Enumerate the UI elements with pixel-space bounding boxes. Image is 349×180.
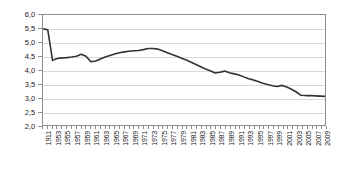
x-axis-tick-mark	[52, 126, 53, 129]
x-axis-tick-label: 1993	[247, 131, 254, 146]
x-axis-tick-mark	[85, 126, 86, 129]
x-axis-tick-mark	[56, 126, 57, 129]
x-axis-tick-mark	[158, 126, 159, 129]
x-axis-tick-mark	[172, 126, 173, 129]
x-axis-tick-mark	[215, 126, 216, 129]
x-axis-tick-label: 1969	[132, 131, 139, 146]
x-axis-tick-label: 1953	[55, 131, 62, 146]
x-axis-tick-label: 1961	[93, 131, 100, 146]
x-axis-tick-mark	[162, 126, 163, 129]
x-axis-tick-mark	[100, 126, 101, 129]
x-axis-tick-label: 2005	[305, 131, 312, 146]
x-axis-tick-label: 2003	[296, 131, 303, 146]
x-axis-tick-label: 1967	[122, 131, 129, 146]
x-axis-tick-mark	[249, 126, 250, 129]
x-axis-tick-mark	[292, 126, 293, 129]
x-axis-tick-mark	[307, 126, 308, 129]
x-axis-tick-mark	[196, 126, 197, 129]
x-axis-tick-mark	[302, 126, 303, 129]
x-axis-tick-mark	[235, 126, 236, 129]
x-axis-tick-label: 1959	[84, 131, 91, 146]
x-axis-tick-mark	[148, 126, 149, 129]
y-axis-tick-label: 2,5	[25, 108, 35, 117]
y-axis-tick-label: 5,5	[25, 24, 35, 33]
x-axis-tick-label: 1997	[267, 131, 274, 146]
x-axis-tick-mark	[206, 126, 207, 129]
y-axis-tick-label: 3,0	[25, 94, 35, 103]
x-axis-tick-mark	[316, 126, 317, 129]
x-axis-tick-mark	[225, 126, 226, 129]
x-axis-tick-label: 1981	[190, 131, 197, 146]
x-axis-tick-mark	[230, 126, 231, 129]
x-axis-tick-mark	[263, 126, 264, 129]
x-axis-tick-mark	[259, 126, 260, 129]
y-axis-tick-label: 3,5	[25, 80, 35, 89]
x-axis-tick-label: 1989	[228, 131, 235, 146]
x-axis-tick-label: 1955	[64, 131, 71, 146]
y-axis-tick-label: 4,5	[25, 52, 35, 61]
y-axis: 6,05,55,04,54,03,53,02,52,0	[0, 0, 42, 140]
x-axis-tick-mark	[287, 126, 288, 129]
x-axis-tick-label: 1963	[103, 131, 110, 146]
x-axis-tick-mark	[129, 126, 130, 129]
series-line-series-1	[43, 15, 325, 125]
x-axis-tick-mark	[244, 126, 245, 129]
x-axis-tick-mark	[42, 126, 43, 129]
series-polyline	[43, 29, 325, 97]
x-axis-tick-mark	[182, 126, 183, 129]
x-axis-tick-mark	[124, 126, 125, 129]
x-axis-tick-label: 1971	[141, 131, 148, 146]
x-axis-tick-mark	[95, 126, 96, 129]
x-axis-tick-mark	[177, 126, 178, 129]
line-chart: 6,05,55,04,54,03,53,02,52,0 191119531955…	[0, 0, 349, 180]
x-axis-tick-label: 1977	[170, 131, 177, 146]
y-axis-tick-label: 2,0	[25, 122, 35, 131]
x-axis-tick-mark	[66, 126, 67, 129]
x-axis-tick-label: 1991	[238, 131, 245, 146]
x-axis-tick-label: 2001	[286, 131, 293, 146]
x-axis-tick-mark	[191, 126, 192, 129]
x-axis-tick-mark	[109, 126, 110, 129]
x-axis-tick-label: 1985	[209, 131, 216, 146]
x-axis-tick-mark	[201, 126, 202, 129]
x-axis-tick-mark	[278, 126, 279, 129]
y-axis-tick-label: 5,0	[25, 38, 35, 47]
x-axis-tick-mark	[186, 126, 187, 129]
x-axis-tick-mark	[71, 126, 72, 129]
x-axis-tick-mark	[143, 126, 144, 129]
x-axis-tick-mark	[283, 126, 284, 129]
x-axis-tick-mark	[210, 126, 211, 129]
x-axis-tick-mark	[268, 126, 269, 129]
x-axis-tick-label: 1973	[151, 131, 158, 146]
x-axis-tick-label: 1979	[180, 131, 187, 146]
x-axis-tick-label: 1983	[199, 131, 206, 146]
x-axis-tick-mark	[326, 126, 327, 129]
x-axis-tick-mark	[167, 126, 168, 129]
x-axis-tick-mark	[297, 126, 298, 129]
x-axis-tick-mark	[133, 126, 134, 129]
plot-area	[42, 14, 326, 126]
x-axis-tick-label: 1999	[276, 131, 283, 146]
y-axis-tick-label: 4,0	[25, 66, 35, 75]
x-axis-tick-label: 2007	[315, 131, 322, 146]
x-axis-tick-mark	[254, 126, 255, 129]
x-axis-tick-mark	[114, 126, 115, 129]
x-axis-tick-mark	[90, 126, 91, 129]
x-axis-tick-label: 1975	[161, 131, 168, 146]
y-axis-tick-label: 6,0	[25, 10, 35, 19]
x-axis-tick-mark	[105, 126, 106, 129]
x-axis-tick-mark	[239, 126, 240, 129]
x-axis-tick-mark	[273, 126, 274, 129]
x-axis-tick-label: 1965	[113, 131, 120, 146]
x-axis-tick-label: 1995	[257, 131, 264, 146]
x-axis-tick-label: 2009	[324, 131, 331, 146]
x-axis: 1911195319551957195919611963196519671969…	[42, 126, 326, 180]
x-axis-tick-label: 1957	[74, 131, 81, 146]
x-axis-tick-mark	[321, 126, 322, 129]
x-axis-tick-label: 1911	[45, 131, 52, 145]
x-axis-tick-mark	[153, 126, 154, 129]
x-axis-tick-mark	[81, 126, 82, 129]
x-axis-tick-mark	[61, 126, 62, 129]
x-axis-tick-mark	[138, 126, 139, 129]
x-axis-tick-mark	[47, 126, 48, 129]
